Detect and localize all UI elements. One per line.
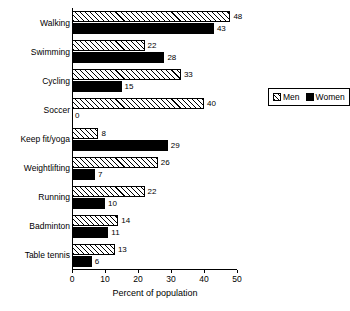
category-label: Weightlifting (2, 163, 70, 173)
bar-women (72, 169, 95, 180)
x-tick-label: 10 (100, 274, 109, 284)
legend-label-men: Men (283, 92, 300, 102)
bar-value-women: 15 (125, 81, 134, 92)
x-tick (204, 270, 205, 273)
bar-women (72, 23, 214, 34)
category-label: Running (2, 192, 70, 202)
x-tick (138, 270, 139, 273)
category-axis-labels: WalkingSwimmingCyclingSoccerKeep fit/yog… (0, 0, 70, 270)
legend-item-men: Men (273, 92, 300, 102)
bar-value-women: 28 (167, 52, 176, 63)
bar-value-men: 48 (233, 11, 242, 22)
bar-women (72, 52, 164, 63)
bar-value-men: 26 (161, 157, 170, 168)
category-label: Walking (2, 18, 70, 28)
plot-area: 48432228331540082926722101411136 (72, 8, 237, 270)
bar-men (72, 157, 158, 168)
x-axis-title: Percent of population (72, 288, 238, 298)
category-label: Keep fit/yoga (2, 134, 70, 144)
bar-women (72, 81, 122, 92)
bar-men (72, 186, 145, 197)
x-tick (105, 270, 106, 273)
bar-men (72, 11, 230, 22)
bar-value-women: 6 (95, 256, 99, 267)
bar-men (72, 98, 204, 109)
legend-label-women: Women (316, 92, 345, 102)
bar-value-men: 8 (101, 128, 105, 139)
x-axis: 01020304050 (72, 270, 238, 290)
bar-men (72, 69, 181, 80)
category-label: Table tennis (2, 250, 70, 260)
bar-value-men: 40 (207, 98, 216, 109)
bar-value-men: 22 (148, 40, 157, 51)
category-label: Soccer (2, 105, 70, 115)
chart-legend: Men Women (268, 88, 350, 106)
x-tick-label: 40 (199, 274, 208, 284)
category-label: Badminton (2, 221, 70, 231)
hatched-swatch-icon (273, 93, 281, 101)
bar-value-women: 43 (217, 23, 226, 34)
bar-value-women: 29 (171, 140, 180, 151)
bar-value-men: 13 (118, 244, 127, 255)
x-tick-label: 30 (166, 274, 175, 284)
x-tick-label: 50 (232, 274, 241, 284)
bar-men (72, 244, 115, 255)
category-label: Swimming (2, 47, 70, 57)
category-label: Cycling (2, 76, 70, 86)
bar-value-men: 33 (184, 69, 193, 80)
solid-black-swatch-icon (306, 93, 314, 101)
bar-women (72, 227, 108, 238)
bar-women (72, 140, 168, 151)
legend-item-women: Women (306, 92, 345, 102)
x-tick-label: 20 (133, 274, 142, 284)
x-tick-label: 0 (70, 274, 75, 284)
x-tick (237, 270, 238, 273)
x-tick (72, 270, 73, 273)
bar-men (72, 128, 98, 139)
bar-value-women: 10 (108, 198, 117, 209)
bar-value-women: 0 (75, 110, 79, 121)
x-tick (171, 270, 172, 273)
bar-value-men: 14 (121, 215, 130, 226)
bar-women (72, 256, 92, 267)
bar-value-men: 22 (148, 186, 157, 197)
bar-men (72, 215, 118, 226)
bar-men (72, 40, 145, 51)
bar-value-women: 7 (98, 169, 102, 180)
bar-value-women: 11 (111, 227, 119, 238)
bar-women (72, 198, 105, 209)
